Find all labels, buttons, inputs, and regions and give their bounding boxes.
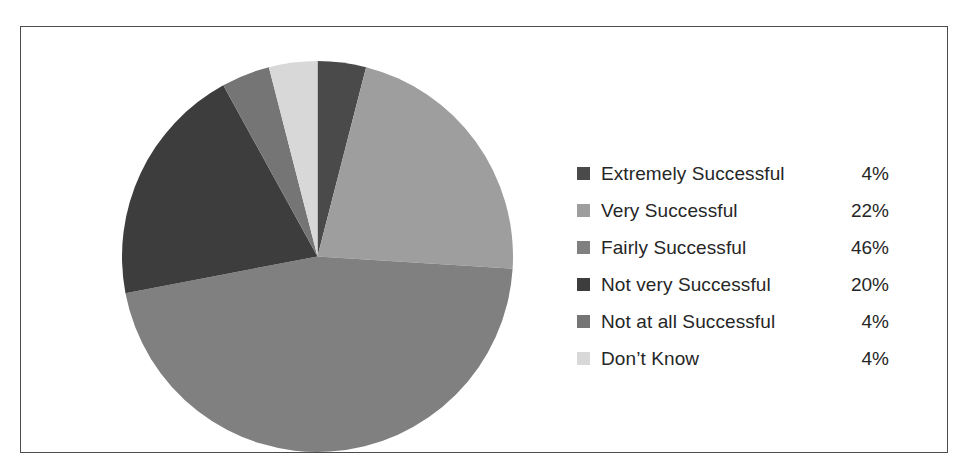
legend-item[interactable]: Extremely Successful 4% <box>577 155 889 192</box>
square-swatch-icon <box>577 315 590 328</box>
legend-item-label: Don’t Know <box>601 348 833 370</box>
pie-chart-svg <box>122 61 513 452</box>
square-swatch-icon <box>577 241 590 254</box>
pie-chart-figure: Extremely Successful 4% Very Successful … <box>0 0 970 474</box>
legend-item[interactable]: Don’t Know 4% <box>577 340 889 377</box>
legend-item-value: 4% <box>833 311 889 333</box>
figure-border-frame: Extremely Successful 4% Very Successful … <box>20 26 948 453</box>
legend-item-value: 46% <box>833 237 889 259</box>
legend-item-value: 22% <box>833 200 889 222</box>
legend-item-value: 4% <box>833 163 889 185</box>
square-swatch-icon <box>577 352 590 365</box>
pie-chart-plot-area <box>122 61 513 452</box>
legend-item-label: Not at all Successful <box>601 311 833 333</box>
legend-item-value: 20% <box>833 274 889 296</box>
square-swatch-icon <box>577 278 590 291</box>
legend-item-label: Not very Successful <box>601 274 833 296</box>
chart-legend: Extremely Successful 4% Very Successful … <box>577 155 889 377</box>
legend-item-label: Fairly Successful <box>601 237 833 259</box>
legend-item[interactable]: Not at all Successful 4% <box>577 303 889 340</box>
legend-item-value: 4% <box>833 348 889 370</box>
legend-item[interactable]: Very Successful 22% <box>577 192 889 229</box>
legend-item[interactable]: Not very Successful 20% <box>577 266 889 303</box>
legend-item-label: Extremely Successful <box>601 163 833 185</box>
pie-slice[interactable] <box>125 257 512 453</box>
square-swatch-icon <box>577 167 590 180</box>
pie-slice-group <box>122 61 513 452</box>
legend-item-label: Very Successful <box>601 200 833 222</box>
square-swatch-icon <box>577 204 590 217</box>
legend-item[interactable]: Fairly Successful 46% <box>577 229 889 266</box>
